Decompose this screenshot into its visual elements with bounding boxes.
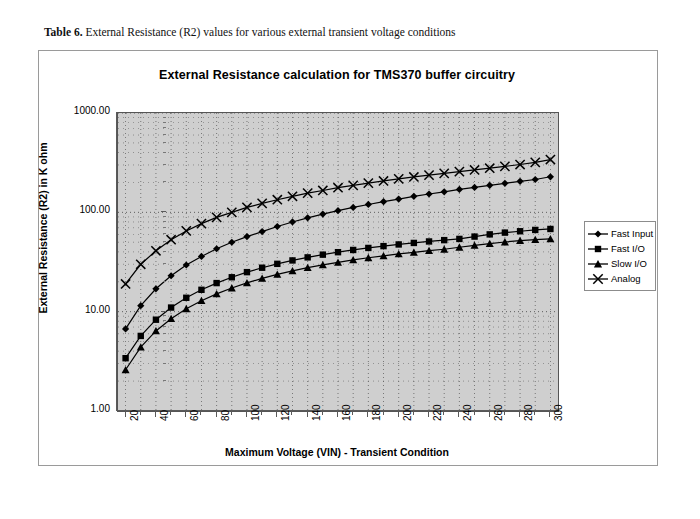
legend-item: Slow I/O [587, 256, 652, 271]
data-point-diamond [501, 180, 508, 187]
x-tick-label: 300 [553, 404, 564, 421]
x-tick-mark [443, 411, 444, 415]
legend-label: Fast I/O [609, 243, 645, 254]
data-point-square [395, 241, 401, 247]
x-tick-label: 200 [402, 404, 413, 421]
caption-text: External Resistance (R2) values for vari… [85, 26, 455, 38]
data-point-diamond [395, 195, 402, 202]
data-point-cross [197, 219, 206, 228]
y-tick-label: 10.00 [50, 304, 110, 315]
square-marker-icon [587, 242, 609, 256]
x-tick-label: 260 [493, 404, 504, 421]
x-tick-label: 180 [371, 404, 382, 421]
data-point-square [487, 231, 493, 237]
x-tick-label: 240 [462, 404, 473, 421]
data-point-diamond [380, 198, 387, 205]
y-tick-minor-mark [163, 251, 166, 252]
x-tick-mark [489, 411, 490, 417]
data-point-cross [167, 235, 176, 244]
data-point-square [532, 227, 538, 233]
data-point-diamond [516, 178, 523, 185]
x-tick-mark [458, 411, 459, 417]
legend-label: Analog [609, 273, 641, 284]
x-tick-mark [261, 411, 262, 415]
x-tick-mark [291, 411, 292, 415]
x-tick-mark [155, 411, 156, 417]
x-tick-label: 280 [523, 404, 534, 421]
diamond-marker-icon [587, 227, 609, 241]
chart-legend: Fast InputFast I/OSlow I/OAnalog [584, 221, 656, 291]
legend-label: Slow I/O [609, 258, 647, 269]
y-tick-minor-mark [163, 281, 166, 282]
data-point-square [138, 333, 144, 339]
y-tick-minor-mark [163, 142, 166, 143]
data-point-triangle [213, 290, 221, 297]
data-point-square [259, 265, 265, 271]
x-tick-label: 80 [220, 410, 231, 421]
x-tick-label: 140 [311, 404, 322, 421]
data-point-square [289, 257, 295, 263]
x-tick-mark [352, 411, 353, 415]
y-tick-minor-mark [163, 263, 166, 264]
legend-label: Fast Input [609, 228, 653, 239]
data-point-cross [182, 226, 191, 235]
x-tick-mark [504, 411, 505, 415]
y-tick-minor-mark [163, 134, 166, 135]
data-point-square [547, 226, 553, 232]
data-point-square [426, 238, 432, 244]
y-tick-minor-mark [163, 221, 166, 222]
legend-item: Fast I/O [587, 241, 652, 256]
y-axis-title: External Resistance (R2) in K ohm [37, 128, 49, 328]
x-tick-mark [246, 411, 247, 417]
data-point-square [456, 236, 462, 242]
y-tick-mark [161, 112, 166, 113]
data-point-square [335, 249, 341, 255]
y-tick-label: 100.00 [50, 204, 110, 215]
data-point-diamond [547, 173, 554, 180]
data-point-square [244, 269, 250, 275]
data-point-diamond [274, 223, 281, 230]
plot-svg [118, 113, 558, 411]
y-tick-mark [161, 311, 166, 312]
data-point-diamond [213, 245, 220, 252]
x-tick-label: 40 [159, 410, 170, 421]
data-point-diamond [122, 325, 129, 332]
data-point-triangle [122, 366, 130, 373]
cross-marker-icon [587, 272, 609, 286]
data-point-square [502, 229, 508, 235]
series-slow-i-o [122, 235, 555, 373]
data-point-triangle [182, 305, 190, 312]
triangle-marker-icon [587, 257, 609, 271]
x-tick-mark [398, 411, 399, 417]
data-point-square [274, 261, 280, 267]
x-tick-mark [170, 411, 171, 415]
chart-title: External Resistance calculation for TMS3… [117, 68, 557, 82]
x-tick-mark [549, 411, 550, 417]
plot-area [117, 112, 559, 412]
y-axis-line [116, 112, 117, 411]
data-point-diamond [486, 182, 493, 189]
data-point-diamond [304, 214, 311, 221]
x-tick-mark [428, 411, 429, 417]
data-point-diamond [259, 228, 266, 235]
data-point-cross [546, 155, 555, 164]
data-point-diamond [456, 186, 463, 193]
data-point-diamond [350, 204, 357, 211]
y-tick-label: 1.00 [50, 403, 110, 414]
data-point-square [198, 287, 204, 293]
y-tick-minor-mark [163, 227, 166, 228]
data-point-square [411, 240, 417, 246]
data-point-cross [151, 246, 160, 255]
x-tick-mark [534, 411, 535, 415]
x-tick-mark [337, 411, 338, 417]
x-tick-mark [367, 411, 368, 417]
data-point-cross [242, 203, 251, 212]
data-point-square [517, 228, 523, 234]
x-tick-mark [383, 411, 384, 415]
data-point-square [304, 254, 310, 260]
data-point-cross [121, 279, 130, 288]
y-tick-minor-mark [163, 326, 166, 327]
x-tick-mark [276, 411, 277, 417]
x-tick-mark [474, 411, 475, 415]
x-tick-label: 120 [280, 404, 291, 421]
